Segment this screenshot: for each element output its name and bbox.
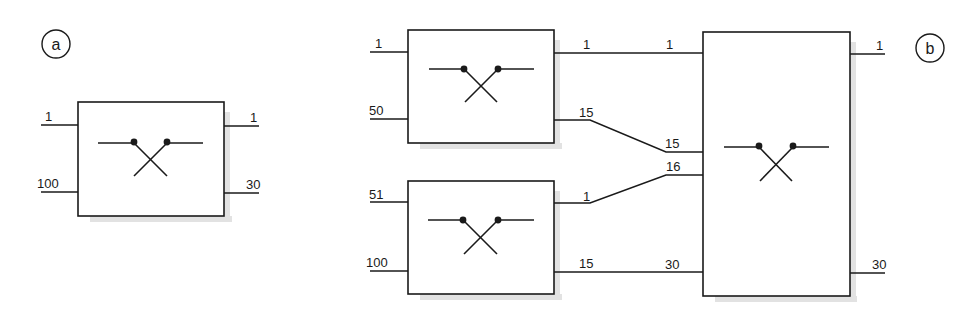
wire-1-to-16 — [554, 175, 703, 203]
interconnect-wires — [554, 53, 703, 272]
block-shadow — [554, 40, 560, 149]
output-label-1: 1 — [583, 37, 590, 52]
crossbar-switch-block-a: 1 100 1 30 — [37, 102, 260, 222]
panel-a: a 1 100 1 30 — [37, 30, 260, 222]
wire-15-to-15 — [554, 120, 703, 152]
output-label-1: 1 — [583, 189, 590, 204]
input-label-2: 100 — [37, 176, 59, 191]
input-label-2: 100 — [366, 255, 388, 270]
block-shadow — [90, 216, 232, 222]
crossbar-switch-block-merge: 1 15 16 30 1 30 — [665, 32, 886, 302]
panel-a-label: a — [52, 36, 61, 53]
input-label-2: 15 — [665, 136, 679, 151]
block-shadow — [224, 112, 230, 222]
panel-b-label: b — [926, 40, 935, 57]
input-label-1: 1 — [45, 109, 52, 124]
input-label-2: 50 — [369, 103, 383, 118]
input-label-1: 51 — [369, 187, 383, 202]
diagram-canvas: a 1 100 1 30 — [0, 0, 978, 321]
output-label-1: 1 — [876, 38, 883, 53]
crossbar-switch-block-top: 1 50 1 15 — [369, 30, 593, 149]
input-label-1: 1 — [666, 37, 673, 52]
output-label-2: 30 — [246, 177, 260, 192]
block-shadow — [420, 143, 562, 149]
output-label-1: 1 — [250, 110, 257, 125]
output-label-2: 15 — [579, 256, 593, 271]
panel-a-badge: a — [42, 30, 70, 58]
panel-b-badge: b — [916, 34, 944, 62]
input-label-4: 30 — [665, 257, 679, 272]
block-shadow — [850, 42, 856, 302]
block-shadow — [715, 296, 857, 302]
block-shadow — [420, 294, 562, 300]
output-label-2: 15 — [579, 105, 593, 120]
block-shadow — [554, 191, 560, 300]
crossbar-switch-block-bottom: 51 100 1 15 — [366, 181, 593, 300]
output-label-2: 30 — [872, 257, 886, 272]
input-label-1: 1 — [375, 36, 382, 51]
panel-b: b 1 50 1 15 — [366, 30, 944, 302]
input-label-3: 16 — [666, 159, 680, 174]
